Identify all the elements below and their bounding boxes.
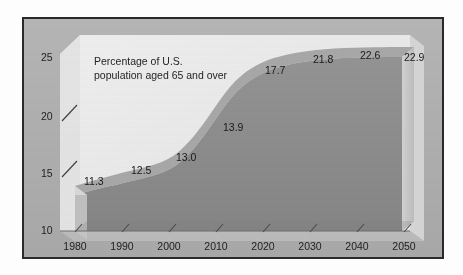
x-tick-label: 1980 [63,240,87,252]
y-tick-label: 10 [41,224,53,236]
caption-line-1: Percentage of U.S. [94,55,183,67]
data-label: 13.0 [176,151,197,163]
data-label: 13.9 [223,121,244,133]
x-tick-label: 2010 [204,240,228,252]
data-label: 17.7 [265,64,286,76]
y-tick-label: 15 [41,167,53,179]
x-tick-label: 1990 [110,240,134,252]
chart-frame: 25 20 15 10 1980 1990 2000 2010 2020 203… [22,17,444,259]
caption-line-2: population aged 65 and over [94,69,228,81]
data-label: 11.3 [84,175,104,187]
x-tick-label: 2030 [298,240,322,252]
y-tick-label: 20 [41,110,53,122]
data-label: 21.8 [313,53,334,65]
data-label: 22.6 [360,49,381,61]
x-tick-label: 2040 [345,240,369,252]
y-tick-label: 25 [41,51,53,63]
area-right-face [402,47,414,231]
data-label: 22.9 [404,51,425,63]
area-bottom-edge [75,221,414,231]
x-tick-label: 2000 [157,240,181,252]
x-tick-label: 2020 [251,240,275,252]
area-chart: 25 20 15 10 1980 1990 2000 2010 2020 203… [24,19,442,257]
x-tick-label: 2050 [392,240,416,252]
figure-container: 25 20 15 10 1980 1990 2000 2010 2020 203… [0,0,463,275]
data-label: 12.5 [131,164,152,176]
